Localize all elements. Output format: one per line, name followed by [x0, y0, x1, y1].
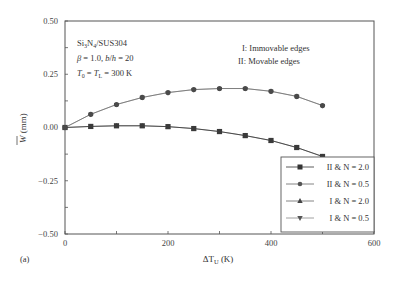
svg-text:W (mm): W (mm) — [18, 113, 28, 143]
svg-text:I & N = 0.5: I & N = 0.5 — [330, 213, 370, 223]
data-point-square — [294, 145, 299, 150]
data-point-square — [88, 124, 93, 129]
circle-marker-icon — [298, 182, 303, 187]
square-marker-icon — [298, 165, 303, 170]
edge-II-annotation: II: Movable edges — [238, 56, 300, 66]
y-tick-label: −0.25 — [38, 176, 58, 186]
x-tick-label: 600 — [368, 238, 381, 248]
y-tick-label: 0.50 — [43, 16, 58, 26]
data-point-circle — [191, 87, 196, 92]
y-tick-label: 0.25 — [43, 69, 58, 79]
data-point-square — [140, 123, 145, 128]
data-point-square — [165, 124, 170, 129]
data-point-circle — [88, 112, 93, 117]
data-point-circle — [140, 95, 145, 100]
data-point-circle — [320, 103, 325, 108]
x-tick-label: 200 — [162, 238, 175, 248]
temperature-annotation: T0 = TL = 300 K — [77, 68, 133, 79]
data-point-circle — [165, 90, 170, 95]
data-point-circle — [268, 89, 273, 94]
series-triangle-down — [62, 87, 325, 131]
edge-I-annotation: I: Immovable edges — [242, 43, 310, 53]
svg-text:II & N = 2.0: II & N = 2.0 — [327, 162, 369, 172]
params-annotation: β = 1.0, b/h = 20 — [76, 53, 134, 63]
svg-text:II & N = 0.5: II & N = 0.5 — [327, 179, 369, 189]
x-axis-title: ΔTU (K) — [203, 254, 234, 265]
chart: 0.50 0.25 0.00 −0.25 −0.50 0 200 400 600… — [0, 0, 400, 284]
data-point-circle — [62, 125, 67, 130]
data-point-square — [268, 138, 273, 143]
data-point-circle — [217, 86, 222, 91]
data-point-square — [243, 133, 248, 138]
svg-text:I & N = 2.0: I & N = 2.0 — [330, 196, 370, 206]
x-tick-label: 0 — [63, 238, 67, 248]
y-tick-label: 0.00 — [43, 122, 58, 132]
data-point-circle — [114, 102, 119, 107]
data-point-circle — [243, 86, 248, 91]
series-layer — [62, 86, 325, 159]
data-point-square — [114, 123, 119, 128]
y-tick-label: −0.50 — [38, 229, 58, 239]
material-annotation: Si3N4/SUS304 — [77, 38, 128, 49]
legend: II & N = 2.0 II & N = 0.5 I & N = 2.0 I … — [281, 157, 374, 232]
series-square — [62, 123, 325, 159]
x-tick-label: 400 — [265, 238, 278, 248]
data-point-circle — [294, 94, 299, 99]
data-point-square — [217, 129, 222, 134]
y-axis-title: W (mm) — [17, 113, 28, 145]
panel-label: (a) — [20, 254, 30, 264]
data-point-square — [191, 126, 196, 131]
